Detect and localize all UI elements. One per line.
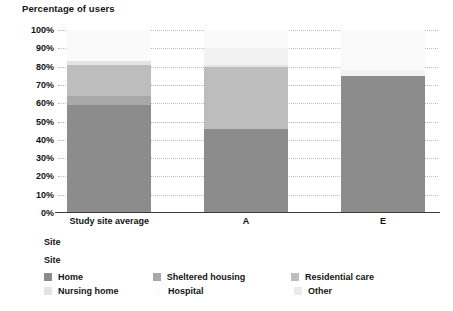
x-axis-tick-label: A: [243, 216, 250, 226]
bar-segment[interactable]: [67, 96, 151, 105]
bar-stack[interactable]: [67, 30, 151, 213]
legend-item[interactable]: Hospital: [154, 286, 294, 296]
legend-item[interactable]: Other: [294, 286, 332, 296]
legend-swatch-icon: [291, 273, 299, 281]
chart-title: Percentage of users: [22, 3, 115, 14]
legend-swatch-icon: [44, 273, 52, 281]
y-axis-tick-label: 20%: [36, 171, 54, 181]
x-axis-tick-label: E: [380, 216, 386, 226]
legend-item-label: Hospital: [168, 286, 204, 296]
legend-item[interactable]: Home: [44, 272, 153, 282]
legend-swatch-icon: [153, 273, 161, 281]
y-axis-tick-label: 30%: [36, 153, 54, 163]
y-axis-tick-label: 100%: [31, 25, 54, 35]
legend-swatch-icon: [294, 287, 302, 295]
y-axis-tick-label: 10%: [36, 190, 54, 200]
legend-title: Site: [44, 255, 374, 265]
x-axis-title: Site: [44, 237, 61, 247]
y-axis-tick-label: 50%: [36, 117, 54, 127]
legend-row: HomeSheltered housingResidential care: [44, 272, 374, 282]
plot-area: [58, 30, 438, 213]
bar-segment[interactable]: [341, 30, 425, 70]
y-axis-tick-label: 80%: [36, 62, 54, 72]
bar-segment[interactable]: [67, 30, 151, 61]
bar-stack[interactable]: [341, 30, 425, 213]
legend-item[interactable]: Sheltered housing: [153, 272, 291, 282]
y-axis-tick-label: 0%: [41, 208, 54, 218]
legend-item-label: Other: [308, 286, 332, 296]
legend-item-label: Home: [58, 272, 83, 282]
bar-segment[interactable]: [204, 129, 288, 213]
legend-item[interactable]: Residential care: [291, 272, 374, 282]
bar-segment[interactable]: [204, 48, 288, 64]
bar-segment[interactable]: [67, 105, 151, 213]
legend-item-label: Sheltered housing: [167, 272, 246, 282]
legend-swatch-icon: [154, 287, 162, 295]
bar-segment[interactable]: [67, 65, 151, 96]
bar-segment[interactable]: [204, 67, 288, 129]
bar-segment[interactable]: [204, 30, 288, 48]
legend-item-label: Residential care: [305, 272, 374, 282]
chart-container: Percentage of users 0%10%20%30%40%50%60%…: [0, 0, 453, 311]
y-axis-tick-label: 40%: [36, 135, 54, 145]
x-axis-line: [55, 212, 440, 213]
y-axis-tick-label: 70%: [36, 80, 54, 90]
y-axis-tick-label: 90%: [36, 43, 54, 53]
legend-item-label: Nursing home: [58, 286, 119, 296]
y-axis-tick-label: 60%: [36, 98, 54, 108]
bar-group: [58, 30, 438, 213]
legend-row: Nursing homeHospitalOther: [44, 286, 374, 296]
y-axis-tick-labels: 0%10%20%30%40%50%60%70%80%90%100%: [0, 30, 54, 213]
legend: Site HomeSheltered housingResidential ca…: [44, 255, 374, 300]
legend-rows: HomeSheltered housingResidential careNur…: [44, 272, 374, 296]
legend-item[interactable]: Nursing home: [44, 286, 154, 296]
x-axis-tick-labels: Study site averageAE: [58, 216, 438, 232]
legend-swatch-icon: [44, 287, 52, 295]
bar-segment[interactable]: [341, 76, 425, 213]
x-axis-tick-label: Study site average: [70, 216, 150, 226]
bar-stack[interactable]: [204, 30, 288, 213]
